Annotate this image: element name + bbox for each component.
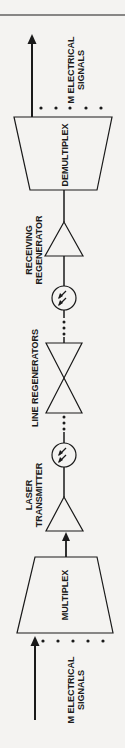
svg-text:M ELECTRICAL: M ELECTRICAL <box>66 656 76 723</box>
continuation-dots <box>63 321 66 336</box>
photodetector-icon <box>52 443 76 467</box>
multiplex-to-laser-arrow <box>62 532 70 557</box>
svg-text:M ELECTRICAL: M ELECTRICAL <box>66 36 76 103</box>
photodetector-icon <box>52 286 76 310</box>
line-regenerator-amplifier <box>46 343 82 378</box>
svg-text:REGENERATOR: REGENERATOR <box>34 215 44 285</box>
laser-transmitter-label: LASER TRANSMITTER <box>24 462 44 527</box>
optical-link-diagram: M ELECTRICAL SIGNALS DEMULTIPLEX RECEIVI… <box>0 0 125 748</box>
receiving-regenerator-label: RECEIVING REGENERATOR <box>24 215 44 285</box>
input-signals-label: M ELECTRICAL SIGNALS <box>66 656 86 723</box>
output-arrow <box>28 34 37 117</box>
line-regenerators-label: LINE REGENERATORS <box>30 329 40 427</box>
svg-text:SIGNALS: SIGNALS <box>76 670 86 710</box>
output-signals-label: M ELECTRICAL SIGNALS <box>66 36 86 103</box>
svg-text:SIGNALS: SIGNALS <box>76 50 86 90</box>
svg-text:TRANSMITTER: TRANSMITTER <box>34 462 44 527</box>
input-arrow <box>31 636 40 720</box>
receiving-regenerator-amplifier <box>45 222 83 256</box>
output-signal-dots <box>39 106 102 109</box>
continuation-dots <box>63 416 66 431</box>
line-regenerator-amplifier <box>46 378 82 413</box>
demultiplex-label: DEMULTIPLEX <box>60 124 70 187</box>
svg-text:RECEIVING: RECEIVING <box>24 225 34 275</box>
svg-text:LASER: LASER <box>24 479 34 510</box>
input-signal-dots <box>41 639 104 642</box>
multiplex-label: MULTIPLEX <box>60 570 70 620</box>
laser-transmitter-amplifier <box>46 497 83 531</box>
